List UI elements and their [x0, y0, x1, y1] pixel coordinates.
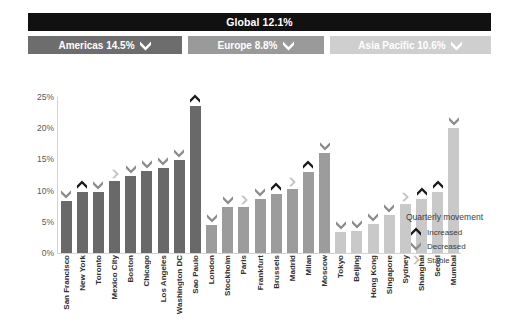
- bar-column[interactable]: [61, 88, 72, 253]
- legend-item[interactable]: Decreased: [410, 241, 518, 251]
- x-axis-label: Washington DC: [174, 255, 185, 314]
- region-summary-asia: Asia Pacific 10.6%: [330, 36, 491, 54]
- bar-column[interactable]: [222, 88, 233, 253]
- chevron-right-icon: [238, 195, 250, 205]
- bar[interactable]: [238, 207, 249, 253]
- legend-item[interactable]: Stable: [410, 255, 518, 265]
- bar[interactable]: [335, 232, 346, 253]
- bar[interactable]: [255, 199, 266, 253]
- y-axis-tick: 10%: [37, 186, 54, 196]
- region-summary-americas: Americas 14.5%: [28, 36, 182, 54]
- x-axis-label: Hong Kong: [368, 255, 379, 298]
- legend: Quarterly movement IncreasedDecreasedSta…: [406, 212, 518, 269]
- bar-column[interactable]: [93, 88, 104, 253]
- bar[interactable]: [222, 207, 233, 253]
- chevron-down-icon: [141, 159, 153, 169]
- chevron-right-icon: [410, 255, 422, 265]
- bar[interactable]: [174, 160, 185, 253]
- chevron-right-icon: [399, 192, 411, 202]
- chevron-down-icon: [92, 180, 104, 190]
- legend-item-label: Stable: [427, 256, 450, 265]
- bar-column[interactable]: [158, 88, 169, 253]
- chevron-down-icon: [173, 148, 185, 158]
- bar-column[interactable]: [238, 88, 249, 253]
- y-axis-tick: 5%: [42, 217, 54, 227]
- bar-chart: 0%5%10%15%20%25% San FranciscoNew YorkTo…: [0, 88, 518, 313]
- region-label-asia: Asia Pacific 10.6%: [358, 40, 445, 51]
- bar-column[interactable]: [351, 88, 362, 253]
- chevron-right-icon: [286, 177, 298, 187]
- chevron-down-icon: [254, 187, 266, 197]
- bar-column[interactable]: [109, 88, 120, 253]
- bar[interactable]: [319, 153, 330, 253]
- chevron-down-icon: [222, 195, 234, 205]
- bar[interactable]: [77, 192, 88, 253]
- chevron-down-icon: [319, 141, 331, 151]
- legend-item-label: Decreased: [427, 242, 466, 251]
- chevron-down-icon: [448, 116, 460, 126]
- bar[interactable]: [206, 225, 217, 253]
- bar[interactable]: [271, 194, 282, 253]
- bar[interactable]: [61, 201, 72, 253]
- y-axis-tick: 15%: [37, 154, 54, 164]
- chevron-down-icon: [157, 156, 169, 166]
- legend-title: Quarterly movement: [406, 212, 518, 222]
- bar-column[interactable]: [125, 88, 136, 253]
- bar[interactable]: [287, 189, 298, 253]
- bar[interactable]: [125, 176, 136, 253]
- bar-column[interactable]: [335, 88, 346, 253]
- bar-column[interactable]: [77, 88, 88, 253]
- global-summary-bar: Global 12.1%: [28, 13, 491, 31]
- bar-column[interactable]: [319, 88, 330, 253]
- bar-column[interactable]: [303, 88, 314, 253]
- chevron-down-icon: [410, 241, 422, 251]
- region-summary-row: Americas 14.5% Europe 8.8% Asia Pacific …: [28, 36, 491, 54]
- bar-column[interactable]: [271, 88, 282, 253]
- chevron-down-icon: [367, 212, 379, 222]
- x-axis-label: Madrid: [287, 255, 298, 281]
- legend-item-label: Increased: [427, 228, 462, 237]
- bar-column[interactable]: [384, 88, 395, 253]
- legend-items: IncreasedDecreasedStable: [406, 227, 518, 265]
- x-axis-label: Toronto: [93, 255, 104, 285]
- y-axis-tick: 25%: [37, 92, 54, 102]
- chevron-up-icon: [416, 187, 428, 197]
- bar[interactable]: [368, 224, 379, 253]
- bar-column[interactable]: [174, 88, 185, 253]
- chevron-down-icon: [206, 213, 218, 223]
- x-axis-label: Singapore: [384, 255, 395, 294]
- x-axis-label: Mexico City: [109, 255, 120, 299]
- bar-column[interactable]: [141, 88, 152, 253]
- bar[interactable]: [141, 171, 152, 253]
- bar-column[interactable]: [255, 88, 266, 253]
- global-summary-label: Global 12.1%: [226, 16, 293, 28]
- x-axis-label: Tokyo: [335, 255, 346, 278]
- x-axis-label: Paris: [238, 255, 249, 275]
- x-axis-label: London: [206, 255, 217, 284]
- bar[interactable]: [384, 215, 395, 253]
- chevron-up-icon: [410, 227, 422, 237]
- x-axis-label: Los Angeles: [158, 255, 169, 302]
- chevron-up-icon: [270, 182, 282, 192]
- bar[interactable]: [303, 172, 314, 253]
- bar-column[interactable]: [190, 88, 201, 253]
- chevron-down-icon: [383, 203, 395, 213]
- chevron-down-icon: [335, 220, 347, 230]
- x-axis-label: Sao Paulo: [190, 255, 201, 294]
- bar-column[interactable]: [287, 88, 298, 253]
- chevron-down-icon: [282, 40, 295, 51]
- bar-column[interactable]: [206, 88, 217, 253]
- bar[interactable]: [351, 231, 362, 253]
- bar[interactable]: [109, 181, 120, 253]
- legend-item[interactable]: Increased: [410, 227, 518, 237]
- chevron-down-icon: [139, 40, 152, 51]
- y-axis: 0%5%10%15%20%25%: [24, 88, 54, 248]
- bar-column[interactable]: [368, 88, 379, 253]
- bar-series-group: [58, 88, 462, 253]
- x-axis-label: Beijing: [351, 255, 362, 282]
- bar[interactable]: [190, 106, 201, 253]
- bar[interactable]: [158, 168, 169, 253]
- chevron-up-icon: [432, 180, 444, 190]
- bar[interactable]: [93, 192, 104, 253]
- chevron-right-icon: [109, 169, 121, 179]
